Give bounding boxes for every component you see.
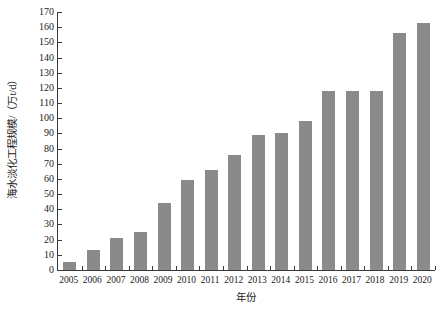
x-axis-tick-mark xyxy=(435,266,436,270)
x-axis-tick-mark xyxy=(270,266,271,270)
x-axis-tick-label: 2017 xyxy=(342,274,361,286)
y-axis-tick-mark xyxy=(58,240,62,241)
x-axis-tick-mark xyxy=(247,266,248,270)
y-axis-tick-label: 100 xyxy=(39,113,54,123)
bar xyxy=(252,135,265,270)
y-axis-tick-mark xyxy=(58,118,62,119)
x-axis-tick-label: 2005 xyxy=(59,274,78,286)
bar xyxy=(110,238,123,270)
bar xyxy=(275,133,288,270)
y-axis-tick-label: 170 xyxy=(39,7,54,17)
x-axis-tick-label: 2014 xyxy=(271,274,290,286)
x-axis-tick-mark xyxy=(388,266,389,270)
x-axis-tick-mark xyxy=(223,266,224,270)
y-axis-tick-mark xyxy=(58,27,62,28)
y-axis-tick-mark xyxy=(58,179,62,180)
bar xyxy=(228,155,241,270)
x-axis-tick-label: 2010 xyxy=(177,274,196,286)
y-axis-tick-label: 20 xyxy=(44,235,54,245)
bar xyxy=(87,250,100,270)
y-axis-tick-label: 70 xyxy=(44,159,54,169)
x-axis-tick-label: 2013 xyxy=(248,274,267,286)
bar xyxy=(417,23,430,270)
x-axis-tick-mark xyxy=(364,266,365,270)
bar-chart-figure: 海水淡化工程规模/（万t/d） 010203040506070809010011… xyxy=(0,0,442,313)
x-axis-tick-mark xyxy=(152,266,153,270)
x-axis-title: 年份 xyxy=(57,291,434,305)
y-axis-tick-label: 150 xyxy=(39,37,54,47)
y-axis-tick-label: 160 xyxy=(39,22,54,32)
y-axis-tick-mark xyxy=(58,255,62,256)
bar xyxy=(63,262,76,270)
bar xyxy=(346,91,359,270)
y-axis-tick-label: 10 xyxy=(44,250,54,260)
x-axis-tick-label: 2016 xyxy=(318,274,337,286)
bar xyxy=(393,33,406,270)
x-axis-tick-mark xyxy=(317,266,318,270)
x-axis-tick-label: 2018 xyxy=(366,274,385,286)
y-axis-tick-mark xyxy=(58,224,62,225)
y-axis-tick-labels: 0102030405060708090100110120130140150160… xyxy=(24,0,54,280)
x-axis-tick-mark xyxy=(341,266,342,270)
y-axis-tick-mark xyxy=(58,42,62,43)
y-axis-title-text: 海水淡化工程规模/（万t/d） xyxy=(4,74,19,198)
bar xyxy=(299,121,312,270)
x-axis-tick-mark xyxy=(176,266,177,270)
bar xyxy=(158,203,171,270)
bars-layer xyxy=(58,12,435,270)
y-axis-tick-label: 40 xyxy=(44,204,54,214)
x-axis-tick-label: 2008 xyxy=(130,274,149,286)
y-axis-tick-label: 130 xyxy=(39,68,54,78)
y-axis-tick-label: 80 xyxy=(44,144,54,154)
bar xyxy=(181,180,194,270)
y-axis-tick-label: 110 xyxy=(39,98,54,108)
y-axis-tick-label: 90 xyxy=(44,128,54,138)
bar xyxy=(322,91,335,270)
y-axis-tick-mark xyxy=(58,209,62,210)
y-axis-tick-mark xyxy=(58,194,62,195)
y-axis-tick-mark xyxy=(58,88,62,89)
x-axis-tick-label: 2019 xyxy=(389,274,408,286)
x-axis-tick-label: 2015 xyxy=(295,274,314,286)
bar xyxy=(134,232,147,270)
x-axis-tick-label: 2007 xyxy=(106,274,125,286)
y-axis-tick-mark xyxy=(58,103,62,104)
plot-area xyxy=(57,12,435,271)
x-axis-tick-mark xyxy=(105,266,106,270)
y-axis-tick-label: 60 xyxy=(44,174,54,184)
y-axis-tick-label: 50 xyxy=(44,189,54,199)
y-axis-title: 海水淡化工程规模/（万t/d） xyxy=(0,0,22,272)
y-axis-tick-mark xyxy=(58,149,62,150)
x-axis-tick-mark xyxy=(294,266,295,270)
y-axis-tick-mark xyxy=(58,73,62,74)
x-axis-tick-label: 2020 xyxy=(413,274,432,286)
x-axis-tick-mark xyxy=(199,266,200,270)
x-axis-tick-label: 2012 xyxy=(224,274,243,286)
y-axis-tick-label: 140 xyxy=(39,53,54,63)
y-axis-tick-mark xyxy=(58,133,62,134)
x-axis-tick-label: 2011 xyxy=(201,274,220,286)
x-axis-tick-label: 2009 xyxy=(154,274,173,286)
y-axis-tick-label: 0 xyxy=(49,265,54,275)
x-axis-tick-labels: 2005200620072008200920102011201220132014… xyxy=(57,274,434,290)
x-axis-tick-label: 2006 xyxy=(83,274,102,286)
y-axis-tick-mark xyxy=(58,164,62,165)
x-axis-tick-mark xyxy=(82,266,83,270)
y-axis-tick-label: 30 xyxy=(44,219,54,229)
x-axis-tick-mark xyxy=(411,266,412,270)
y-axis-tick-mark xyxy=(58,58,62,59)
bar xyxy=(205,170,218,270)
y-axis-tick-label: 120 xyxy=(39,83,54,93)
y-axis-tick-mark xyxy=(58,12,62,13)
x-axis-tick-mark xyxy=(129,266,130,270)
bar xyxy=(370,91,383,270)
